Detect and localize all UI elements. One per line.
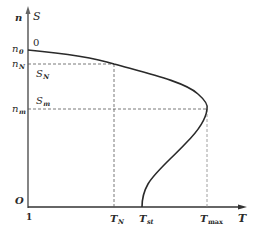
origin-label: O — [15, 196, 24, 206]
x-axis-arrow-icon — [238, 205, 247, 210]
nN-label: nN — [12, 59, 25, 69]
nm-sub: m — [19, 108, 26, 116]
Tst-sub: st — [147, 218, 154, 226]
n0-sub: 0 — [19, 48, 24, 56]
Tst-label: Tst — [139, 214, 154, 224]
slip-one-label: 1 — [26, 213, 32, 222]
SN-main: S — [36, 68, 43, 79]
Sm-main: S — [36, 95, 43, 106]
nN-sub: N — [19, 63, 25, 71]
nm-label: nm — [12, 104, 26, 114]
Tmax-label: Tmax — [200, 214, 223, 224]
x-axis-label-t: T — [238, 213, 246, 224]
y-axis-arrow-icon — [26, 6, 31, 14]
TN-sub: N — [118, 218, 124, 226]
SN-label: SN — [36, 69, 49, 79]
nN-main: n — [12, 58, 18, 69]
speed-torque-diagram — [0, 0, 262, 234]
n0-main: n — [12, 43, 18, 54]
Sm-sub: m — [43, 100, 50, 108]
n0-label: n0 — [12, 44, 23, 54]
TN-label: TN — [110, 214, 124, 224]
SN-sub: N — [43, 73, 49, 81]
Tst-main: T — [139, 213, 146, 224]
nm-main: n — [12, 103, 18, 114]
Sm-label: Sm — [36, 96, 50, 106]
slip-zero-label: 0 — [33, 38, 39, 48]
Tmax-sub: max — [208, 218, 223, 226]
Tmax-main: T — [200, 213, 207, 224]
characteristic-curve — [28, 50, 207, 207]
y-axis-label-n: n — [15, 13, 22, 23]
TN-main: T — [110, 213, 117, 224]
y-axis-label-s: S — [33, 11, 41, 22]
